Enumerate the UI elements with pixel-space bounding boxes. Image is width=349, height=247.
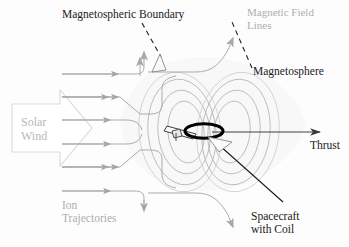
- label-thrust: Thrust: [310, 139, 340, 152]
- label-spacecraft-line2: with Coil: [251, 223, 294, 236]
- label-magnetic-field-lines-line1: Magnetic Field: [247, 6, 314, 19]
- magsail-diagram: Magnetospheric Boundary Magnetic Field L…: [0, 0, 349, 247]
- label-magnetospheric-boundary: Magnetospheric Boundary: [62, 8, 184, 21]
- label-solar-wind-line2: Wind: [21, 130, 47, 143]
- boundary-leader-line: [142, 23, 166, 72]
- label-spacecraft-line1: Spacecraft: [251, 210, 300, 223]
- label-ion-trajectories-line1: Ion: [62, 199, 77, 212]
- label-magnetic-field-lines-line2: Lines: [247, 19, 271, 32]
- label-ion-trajectories-line2: Trajectories: [62, 212, 117, 225]
- label-solar-wind-line1: Solar: [21, 116, 46, 129]
- label-magnetosphere: Magnetosphere: [253, 65, 324, 78]
